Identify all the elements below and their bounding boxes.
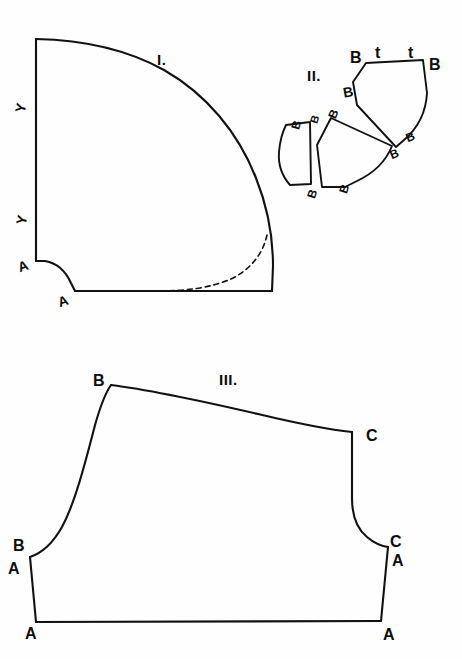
figure-1-shape [36,39,273,291]
figure-3-label-a-right-lower: A [383,627,395,643]
figure-3-caption: III. [219,372,238,387]
figure-3-label-a-left-lower: A [25,626,37,642]
figure-3-label-b-left: B [13,538,25,554]
figure-3-label-a-left-upper: A [8,561,20,577]
figure-2-label-b-top-left: B [350,50,362,66]
drawing-sheet: I. II. III. Y Y A A B t t B B B B B B B … [0,0,462,659]
figure-2-caption: II. [307,68,321,83]
figure-2-label-b-upper-inner: B [342,84,354,100]
figure-3-label-c-top: C [366,428,378,444]
figure-2-label-b-top-right: B [429,57,441,73]
figure-3-shape [30,385,388,622]
figure-3-label-c-right: C [390,534,402,550]
figure-3-label-b-top: B [93,373,105,389]
figure-2-label-t-right: t [408,45,413,61]
figure-3-label-a-right-upper: A [392,553,404,569]
figure-2-label-t-left: t [375,45,380,61]
figure-1-caption: I. [157,52,166,67]
